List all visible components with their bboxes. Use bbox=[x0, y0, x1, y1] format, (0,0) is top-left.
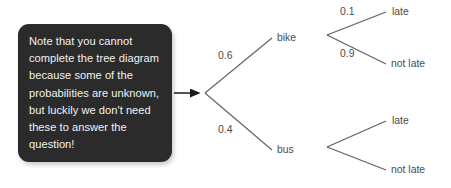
branch-bus-to-late bbox=[327, 121, 386, 147]
branch-bike-to-not-late bbox=[327, 35, 386, 64]
probability-label-bike-not-late: 0.9 bbox=[340, 48, 355, 59]
node-label-bus-late: late bbox=[392, 115, 409, 126]
node-label-bike-late: late bbox=[392, 6, 409, 17]
diagram-canvas: Note that you cannot complete the tree d… bbox=[0, 0, 451, 188]
node-label-bike-not-late: not late bbox=[391, 58, 425, 69]
node-label-bus-not-late: not late bbox=[391, 164, 425, 175]
branch-root-to-bike bbox=[205, 38, 272, 93]
probability-tree: bike bus 0.6 0.4 late not late 0.1 0.9 l… bbox=[0, 0, 451, 188]
branch-root-to-bus bbox=[205, 93, 272, 150]
probability-label-bike-late: 0.1 bbox=[340, 6, 355, 17]
node-label-bus: bus bbox=[277, 144, 294, 155]
node-label-bike: bike bbox=[277, 32, 296, 43]
branch-bus-to-not-late bbox=[327, 147, 386, 170]
probability-label-bike: 0.6 bbox=[218, 50, 233, 61]
branch-bike-to-late bbox=[327, 12, 386, 35]
probability-label-bus: 0.4 bbox=[218, 124, 233, 135]
